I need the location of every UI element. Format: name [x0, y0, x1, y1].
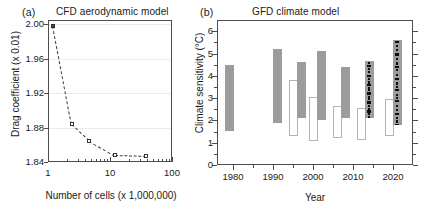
panel-a-plot-area [48, 20, 172, 162]
panel-b-dot [396, 82, 398, 84]
panel-a-y-tick [44, 162, 48, 163]
panel-a-x-ticklabel: 1 [30, 167, 66, 178]
panel-b-dot [395, 53, 399, 55]
panel-b-dot [368, 68, 370, 70]
panel-b-dot [367, 84, 371, 86]
panel-b-dot [395, 66, 399, 68]
panel-b-y-tick-minor-right [413, 154, 416, 155]
panel-b-dot [368, 78, 370, 80]
panel-b-bar-1979 [225, 65, 234, 132]
panel-a-x-tick-minor [129, 159, 130, 162]
panel-b-x-ticklabel: 2010 [333, 171, 373, 182]
panel-a-x-ticklabel: 100 [154, 167, 190, 178]
panel-b-y-tick-right [413, 54, 418, 55]
panel-b-x-ticklabel: 2020 [373, 171, 413, 182]
panel-b-dot [396, 94, 398, 96]
panel-b-bar-1997 [297, 62, 306, 118]
panel-b-y-tick-minor [214, 154, 217, 155]
panel-b-y-tick-minor-right [413, 109, 416, 110]
panel-a-data-point [70, 122, 74, 126]
panel-a-x-tick-minor [162, 159, 163, 162]
panel-a-x-tick-minor [166, 159, 167, 162]
panel-b-dot [396, 62, 398, 64]
panel-b-dot [396, 74, 398, 76]
panel-a-y-tick [44, 24, 48, 25]
panel-b-y-ticklabel: 5 [191, 48, 213, 59]
panel-a-x-ticklabel: 10 [92, 167, 128, 178]
panel-b-plot-area [217, 20, 413, 165]
panel-a-y-ticklabel: 1.92 [2, 87, 44, 98]
panel-a-x-tick-minor [78, 159, 79, 162]
panel-b-dot [367, 75, 371, 77]
panel-a-x-tick-minor [107, 159, 108, 162]
panel-a-title: CFD aerodynamic model [56, 6, 169, 17]
panel-b-x-tick [313, 165, 314, 170]
panel-b-dot [368, 116, 370, 118]
panel-b-dot [368, 98, 370, 100]
panel-b-y-tick-minor-right [413, 42, 416, 43]
panel-b-y-tick-minor-right [413, 132, 416, 133]
panel-b-dot [368, 108, 370, 110]
panel-b-dot [395, 100, 399, 102]
panel-a-y-tick [44, 128, 48, 129]
panel-a-data-point [51, 24, 55, 28]
panel-a-x-tick-major [110, 157, 111, 162]
panel-a-y-axis-title: Drag coefficient (x 0.01) [10, 13, 21, 155]
panel-a-x-tick-minor [91, 159, 92, 162]
panel-a-x-tick-minor [85, 159, 86, 162]
panel-b-y-tick-right [413, 165, 418, 166]
panel-b-dot [367, 110, 371, 112]
panel-b-x-tick-minor [293, 165, 294, 168]
panel-b-y-tick-minor [214, 87, 217, 88]
panel-b-dot [396, 109, 398, 111]
panel-b-gfd: (b) GFD climate model Climate sensitivit… [196, 0, 436, 213]
figure-canvas: (a) CFD aerodynamic model Drag coefficie… [0, 0, 436, 213]
panel-b-x-tick-minor [253, 165, 254, 168]
panel-b-x-tick [273, 165, 274, 170]
panel-b-dot [368, 87, 370, 89]
panel-b-bar-1991 [273, 49, 282, 123]
panel-b-dot [396, 105, 398, 107]
panel-b-dot [368, 105, 370, 107]
panel-b-y-tick-right [413, 120, 418, 121]
panel-b-bar-2008 [341, 67, 350, 118]
panel-b-x-tick [393, 165, 394, 170]
panel-b-x-ticklabel: 1980 [213, 171, 253, 182]
panel-b-y-ticklabel: 6 [191, 25, 213, 36]
panel-a-x-tick-minor [169, 159, 170, 162]
panel-a-x-tick-minor [140, 159, 141, 162]
panel-b-y-tick-minor [214, 132, 217, 133]
panel-b-y-tick-minor [214, 109, 217, 110]
panel-b-x-ticklabel: 2000 [293, 171, 333, 182]
panel-b-y-tick-minor-right [413, 65, 416, 66]
panel-a-y-ticklabel: 1.84 [2, 156, 44, 167]
panel-a-y-tick [44, 93, 48, 94]
panel-a-x-tick-minor [104, 159, 105, 162]
panel-b-y-tick-right [413, 143, 418, 144]
panel-a-x-tick-minor [96, 159, 97, 162]
panel-b-dot [395, 89, 399, 91]
panel-b-y-ticklabel: 0 [191, 159, 213, 170]
panel-a-y-ticklabel: 1.88 [2, 122, 44, 133]
panel-a-x-axis-title: Number of cells (x 1,000,000) [38, 190, 184, 201]
panel-a-gridline [49, 93, 171, 94]
panel-b-y-tick-right [413, 31, 418, 32]
panel-b-dot [396, 49, 398, 51]
panel-a-gridline [49, 24, 171, 25]
panel-b-y-tick-right [413, 98, 418, 99]
panel-b-dot [396, 117, 398, 119]
panel-b-dot-overlay-2021 [395, 40, 399, 125]
panel-b-y-tick-minor [214, 42, 217, 43]
panel-b-dot [367, 92, 371, 94]
panel-b-dot [395, 78, 399, 80]
panel-b-y-ticklabel: 3 [191, 92, 213, 103]
panel-b-title: GFD climate model [252, 6, 339, 17]
panel-b-dot [396, 69, 398, 71]
panel-a-y-ticklabel: 2.00 [2, 18, 44, 29]
panel-b-dot [396, 86, 398, 88]
panel-b-y-ticklabel: 2 [191, 114, 213, 125]
panel-a-x-tick-minor [67, 159, 68, 162]
panel-b-dot [396, 45, 398, 47]
panel-b-dot [368, 89, 370, 91]
panel-a-x-tick-major [172, 157, 173, 162]
